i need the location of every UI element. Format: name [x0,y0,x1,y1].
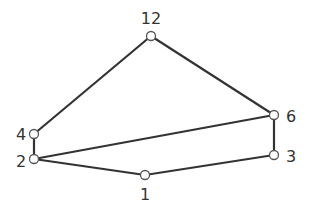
edge-1-3 [145,155,274,175]
edge-2-6 [34,115,274,159]
node-label-12: 12 [141,9,161,28]
node-12 [147,32,156,41]
edges-group [34,36,274,175]
edge-2-1 [34,159,145,175]
node-1 [141,171,150,180]
node-4 [30,130,39,139]
node-label-4: 4 [16,125,26,144]
node-label-2: 2 [16,152,26,171]
node-6 [270,111,279,120]
node-label-3: 3 [286,147,296,166]
node-label-1: 1 [140,185,150,204]
edge-12-4 [34,36,151,134]
edge-12-6 [151,36,274,115]
node-2 [30,155,39,164]
hasse-diagram: 1242631 [0,0,316,219]
node-label-6: 6 [286,107,296,126]
node-3 [270,151,279,160]
